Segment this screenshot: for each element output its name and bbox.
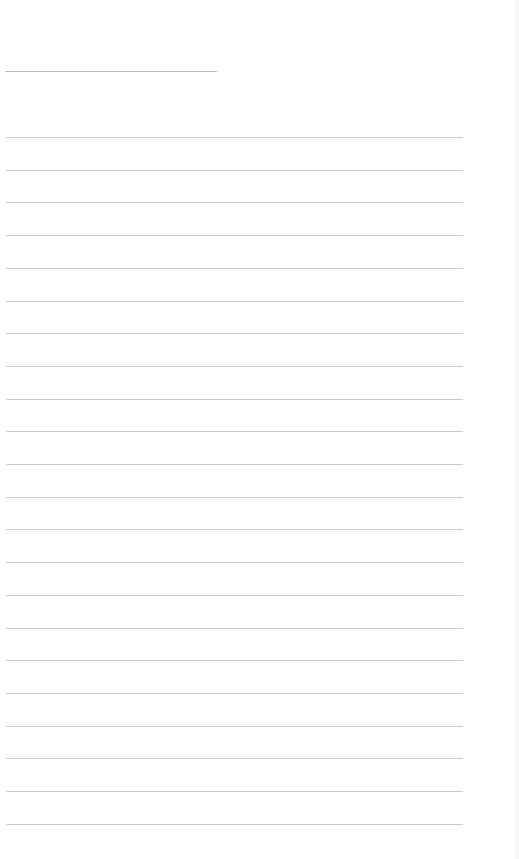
ruled-line [6,464,463,465]
ruled-line [6,497,463,498]
ruled-line [6,170,463,171]
title-underline [5,71,217,72]
ruled-line [6,431,463,432]
ruled-line [6,595,463,596]
ruled-line [6,137,463,138]
ruled-line [6,693,463,694]
ruled-line [6,562,463,563]
ruled-line [6,628,463,629]
ruled-line [6,366,463,367]
ruled-line [6,791,463,792]
ruled-line [6,758,463,759]
ruled-line [6,726,463,727]
ruled-line [6,660,463,661]
lined-paper-page [0,0,519,859]
page-edge [515,0,519,859]
ruled-line [6,824,463,825]
ruled-line [6,268,463,269]
ruled-line [6,529,463,530]
ruled-line [6,333,463,334]
ruled-line [6,235,463,236]
ruled-line [6,399,463,400]
ruled-line [6,202,463,203]
ruled-line [6,301,463,302]
